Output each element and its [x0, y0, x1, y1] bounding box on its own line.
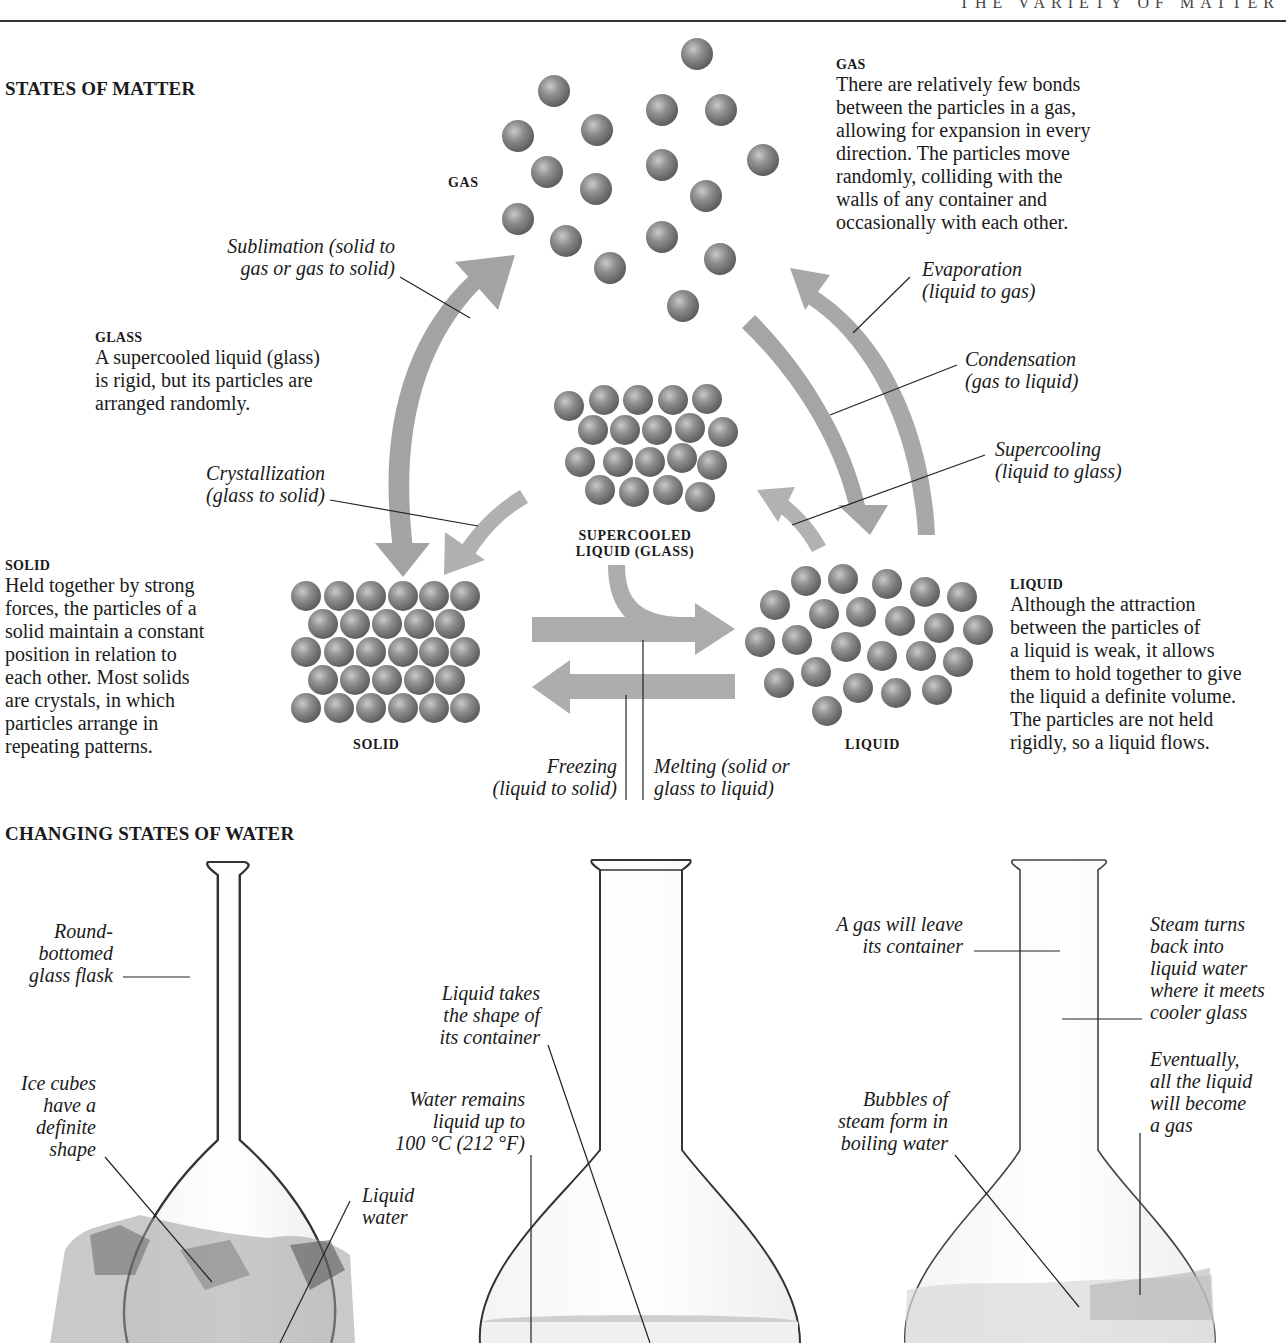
gas-leave-label: A gas will leave its container: [800, 913, 963, 957]
solid-caption-body: Held together by strong forces, the part…: [5, 574, 204, 758]
glass-caption: GLASS A supercooled liquid (glass) is ri…: [95, 330, 320, 415]
liquid-particles: [745, 564, 993, 726]
condensation-label: Condensation (gas to liquid): [965, 348, 1078, 392]
water-remains-label: Water remains liquid up to 100 °C (212 °…: [370, 1088, 525, 1154]
solid-particles: [291, 581, 480, 723]
liquid-shape-label: Liquid takes the shape of its container: [380, 982, 540, 1048]
glass-particles: [554, 384, 738, 512]
glass-caption-head: GLASS: [95, 330, 320, 346]
solid-caption-head: SOLID: [5, 558, 204, 574]
liquid-caption-head: LIQUID: [1010, 577, 1242, 593]
supercooled-liquid-label: SUPERCOOLED LIQUID (GLASS): [560, 528, 710, 560]
supercooling-label: Supercooling (liquid to glass): [995, 438, 1122, 482]
solid-caption: SOLID Held together by strong forces, th…: [5, 558, 204, 758]
gas-caption-head: GAS: [836, 57, 1090, 73]
liquid-water-label: Liquid water: [362, 1184, 414, 1228]
water-fill: [482, 1315, 798, 1343]
flask-label: Round- bottomed glass flask: [0, 920, 113, 986]
bubbles-label: Bubbles of steam form in boiling water: [800, 1088, 948, 1154]
evaporation-label: Evaporation (liquid to gas): [922, 258, 1035, 302]
melting-label: Melting (solid or glass to liquid): [654, 755, 790, 799]
eventually-label: Eventually, all the liquid will become a…: [1150, 1048, 1252, 1136]
supercooling-arrow: [757, 487, 826, 552]
steam-turns-label: Steam turns back into liquid water where…: [1150, 913, 1265, 1023]
crystallization-arrow: [444, 490, 528, 575]
melting-arrow: [532, 565, 735, 655]
gas-caption: GAS There are relatively few bonds betwe…: [836, 57, 1090, 234]
gas-particles: [502, 38, 779, 322]
gas-state-label: GAS: [448, 175, 479, 191]
states-of-matter-title: STATES OF MATTER: [5, 78, 195, 100]
flask-liquid: [480, 860, 800, 1343]
liquid-caption: LIQUID Although the attraction between t…: [1010, 577, 1242, 754]
gas-caption-body: There are relatively few bonds between t…: [836, 73, 1090, 234]
ice-cubes-label: Ice cubes have a definite shape: [0, 1072, 96, 1160]
changing-states-title: CHANGING STATES OF WATER: [5, 823, 294, 845]
liquid-state-label: LIQUID: [845, 737, 900, 753]
glass-caption-body: A supercooled liquid (glass) is rigid, b…: [95, 346, 320, 415]
freezing-arrow: [532, 660, 735, 714]
liquid-caption-body: Although the attraction between the part…: [1010, 593, 1242, 754]
freezing-label: Freezing (liquid to solid): [440, 755, 617, 799]
solid-state-label: SOLID: [353, 737, 400, 753]
sublimation-label: Sublimation (solid to gas or gas to soli…: [170, 235, 395, 279]
crystallization-label: Crystallization (glass to solid): [170, 462, 325, 506]
